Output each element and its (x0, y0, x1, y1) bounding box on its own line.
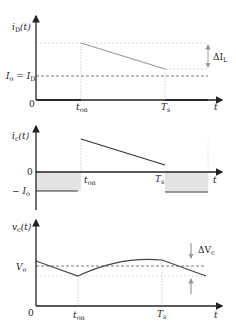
origin-label: 0 (28, 308, 34, 318)
negative-charge-area-1 (36, 172, 81, 191)
origin-label: 0 (29, 99, 35, 109)
t-axis-label: t (214, 310, 218, 320)
ic-trace (81, 139, 165, 165)
ton-label: ton (73, 310, 85, 322)
ts-label: Ts (161, 102, 170, 114)
ic-axis-label: ic(t) (12, 131, 30, 143)
ts-label: Ts (157, 309, 166, 321)
ton-label: ton (84, 175, 96, 187)
neg-io-label: − Io (12, 186, 30, 198)
panel-vc: vc(t) Vo 0 ton Ts t ΔVc (12, 220, 222, 322)
t-axis-label: t (213, 175, 217, 185)
panel-ic: ic(t) 0 − Io ton Ts t (12, 126, 222, 210)
vo-label: Vo (16, 262, 27, 274)
iD-trace (81, 43, 165, 69)
delta-vc-label: ΔVc (198, 245, 215, 257)
iD-axis-label: iD(t) (12, 22, 31, 34)
zero-label: 0 (27, 167, 33, 177)
vc-axis-label: vc(t) (12, 222, 32, 234)
ton-label: ton (76, 102, 88, 114)
ts-label: Ts (155, 174, 164, 186)
buck-converter-waveforms: iD(t) Io = ID 0 ton Ts t ΔIL ic(t) 0 − I… (0, 0, 236, 336)
delta-il-label: ΔIL (213, 52, 228, 64)
t-axis-label: t (214, 102, 218, 112)
negative-charge-area-2 (165, 172, 208, 191)
io-eq-id-label: Io = ID (5, 71, 36, 83)
vc-trace (36, 259, 206, 276)
panel-iD: iD(t) Io = ID 0 ton Ts t ΔIL (5, 16, 228, 114)
